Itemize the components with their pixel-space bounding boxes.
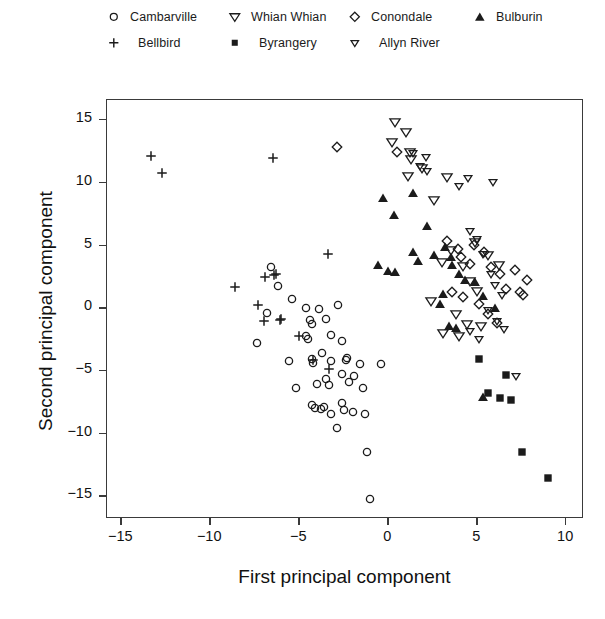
data-point-bulburin xyxy=(388,265,402,283)
y-tick xyxy=(99,370,106,371)
x-axis-title: First principal component xyxy=(106,566,583,588)
data-point-byrangery xyxy=(504,393,518,411)
legend-label: Conondale xyxy=(371,10,432,24)
data-point-cambarville xyxy=(285,292,299,310)
y-tick xyxy=(99,433,106,434)
x-tick xyxy=(298,518,299,525)
legend-label: Byrangery xyxy=(259,36,317,50)
data-point-bulburin xyxy=(387,208,401,226)
data-point-byrangery xyxy=(541,471,555,489)
x-tick-label: −10 xyxy=(184,528,234,544)
data-point-allyn-river xyxy=(497,322,511,340)
data-point-cambarville xyxy=(330,421,344,439)
data-point-cambarville xyxy=(374,357,388,375)
data-points-layer xyxy=(107,100,584,519)
data-point-bellbird xyxy=(292,329,306,347)
x-tick xyxy=(387,518,388,525)
data-point-conondale xyxy=(330,140,344,158)
plot-area xyxy=(106,99,583,518)
triangle-down-open-large-icon xyxy=(225,8,245,26)
data-point-allyn-river xyxy=(495,288,509,306)
data-point-bellbird xyxy=(144,149,158,167)
plus-icon xyxy=(104,34,124,52)
y-tick xyxy=(99,119,106,120)
data-point-cambarville xyxy=(281,354,295,372)
legend: CambarvilleWhian WhianConondaleBulburinB… xyxy=(0,8,605,70)
data-point-whian-whian xyxy=(427,193,441,211)
data-point-bellbird xyxy=(274,312,288,330)
x-tick-label: 0 xyxy=(362,528,412,544)
diamond-open-icon xyxy=(345,8,365,26)
data-point-bellbird xyxy=(155,166,169,184)
data-point-cambarville xyxy=(331,298,345,316)
data-point-bulburin xyxy=(449,321,463,339)
y-tick xyxy=(99,495,106,496)
x-tick xyxy=(209,518,210,525)
x-tick-label: 5 xyxy=(451,528,501,544)
legend-label: Whian Whian xyxy=(251,10,326,24)
data-point-bellbird xyxy=(269,267,283,285)
legend-label: Cambarville xyxy=(130,10,197,24)
data-point-allyn-river xyxy=(420,164,434,182)
data-point-bellbird xyxy=(306,353,320,371)
legend-label: Allyn River xyxy=(379,36,440,50)
data-point-bellbird xyxy=(228,280,242,298)
scatter-plot-figure: CambarvilleWhian WhianConondaleBulburinB… xyxy=(0,0,605,619)
data-point-cambarville xyxy=(289,381,303,399)
legend-item-bellbird: Bellbird xyxy=(104,34,181,52)
square-filled-icon xyxy=(225,34,245,52)
data-point-allyn-river xyxy=(461,171,475,189)
data-point-bulburin xyxy=(433,297,447,315)
triangle-down-open-small-icon xyxy=(345,34,365,52)
x-tick xyxy=(120,518,121,525)
data-point-conondale xyxy=(390,145,404,163)
legend-item-byrangery: Byrangery xyxy=(225,34,317,52)
data-point-whian-whian xyxy=(399,125,413,143)
data-point-bulburin xyxy=(406,186,420,204)
legend-item-allyn-river: Allyn River xyxy=(345,34,440,52)
data-point-allyn-river xyxy=(472,332,486,350)
data-point-allyn-river xyxy=(476,247,490,265)
data-point-conondale xyxy=(520,273,534,291)
x-tick-label: −5 xyxy=(273,528,323,544)
data-point-byrangery xyxy=(472,352,486,370)
data-point-allyn-river xyxy=(486,175,500,193)
x-tick-label: 10 xyxy=(540,528,590,544)
x-tick xyxy=(476,518,477,525)
circle-open-icon xyxy=(104,8,124,26)
data-point-cambarville xyxy=(249,336,263,354)
data-point-bulburin xyxy=(420,219,434,237)
y-tick xyxy=(99,307,106,308)
data-point-cambarville xyxy=(363,492,377,510)
data-point-bellbird xyxy=(322,362,336,380)
legend-item-conondale: Conondale xyxy=(345,8,432,26)
data-point-cambarville xyxy=(356,381,370,399)
data-point-bellbird xyxy=(265,151,279,169)
data-point-cambarville xyxy=(358,407,372,425)
legend-item-bulburin: Bulburin xyxy=(470,8,543,26)
data-point-byrangery xyxy=(515,445,529,463)
legend-item-cambarville: Cambarville xyxy=(104,8,197,26)
legend-label: Bulburin xyxy=(496,10,543,24)
x-tick-label: −15 xyxy=(95,528,145,544)
data-point-byrangery xyxy=(499,368,513,386)
data-point-bellbird xyxy=(257,314,271,332)
y-tick xyxy=(99,182,106,183)
legend-item-whian-whian: Whian Whian xyxy=(225,8,326,26)
data-point-cambarville xyxy=(360,445,374,463)
x-tick xyxy=(565,518,566,525)
y-tick xyxy=(99,245,106,246)
legend-label: Bellbird xyxy=(138,36,181,50)
y-axis-title: Second principal component xyxy=(35,101,57,521)
data-point-bellbird xyxy=(321,247,335,265)
triangle-up-filled-icon xyxy=(470,8,490,26)
data-point-bulburin xyxy=(411,254,425,272)
